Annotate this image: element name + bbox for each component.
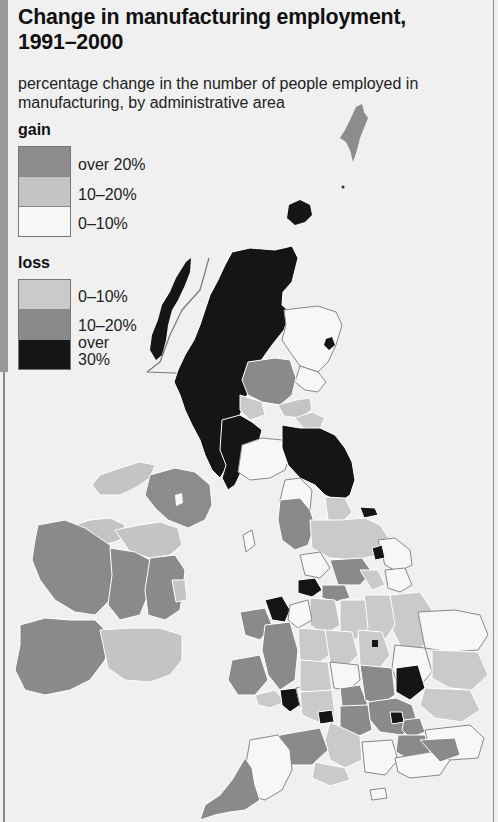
region-orkney: [287, 200, 312, 225]
legend-label-loss-over-30-line1: over: [78, 334, 109, 351]
region-berks-black: [390, 712, 404, 724]
legend-gain-heading: gain: [18, 121, 51, 139]
region-essex: [420, 688, 480, 722]
legend-label-loss-0-10: 0–10%: [78, 288, 128, 305]
region-shetland: [340, 104, 368, 162]
region-clwyd: [288, 600, 312, 628]
legend-swatch-loss-10-20: [19, 310, 70, 340]
region-dyfed: [228, 655, 268, 695]
map-title: Change in manufacturing employment, 1991…: [18, 4, 406, 54]
legend-swatch-gain-over-20: [19, 147, 70, 177]
region-suffolk: [432, 650, 488, 690]
legend-loss-heading: loss: [18, 254, 50, 272]
region-south-ireland-west: [15, 618, 110, 695]
region-southeast-ireland: [100, 628, 182, 682]
legend-loss-swatches: [18, 279, 71, 370]
region-isle-of-wight: [370, 788, 387, 800]
region-midlands-ireland: [108, 548, 150, 620]
map-subtitle: percentage change in the number of peopl…: [18, 74, 438, 112]
region-hampshire: [362, 740, 398, 775]
legend-label-gain-0-10: 0–10%: [78, 215, 128, 232]
legend-label-loss-10-20: 10–20%: [78, 317, 137, 334]
legend-swatch-gain-10-20: [19, 177, 70, 207]
legend-label-gain-10-20: 10–20%: [78, 186, 137, 203]
legend-label-gain-over-20: over 20%: [78, 156, 146, 173]
legend-label-loss-over-30-line2: 30%: [78, 351, 110, 368]
legend-swatch-loss-over-30: [19, 340, 70, 369]
region-humberside: [385, 568, 412, 592]
region-avon-black: [318, 710, 334, 724]
region-teesside: [360, 507, 378, 518]
region-cornwall: [200, 758, 260, 820]
region-merseyside: [298, 578, 322, 597]
legend-gain-swatches: [18, 146, 71, 237]
map-title-line1: Change in manufacturing employment,: [18, 4, 406, 29]
map-title-line2: 1991–2000: [18, 29, 406, 54]
region-outer-hebrides: [150, 258, 191, 360]
region-tayside: [295, 366, 326, 392]
legend-swatch-gain-0-10: [19, 207, 70, 236]
region-isle-of-man: [243, 530, 255, 552]
region-norfolk: [418, 610, 488, 652]
legend-swatch-loss-0-10: [19, 280, 70, 310]
region-leics-black-spot: [372, 640, 378, 647]
region-durham: [325, 497, 352, 522]
choropleth-map: [0, 0, 498, 822]
region-donegal: [92, 462, 155, 495]
